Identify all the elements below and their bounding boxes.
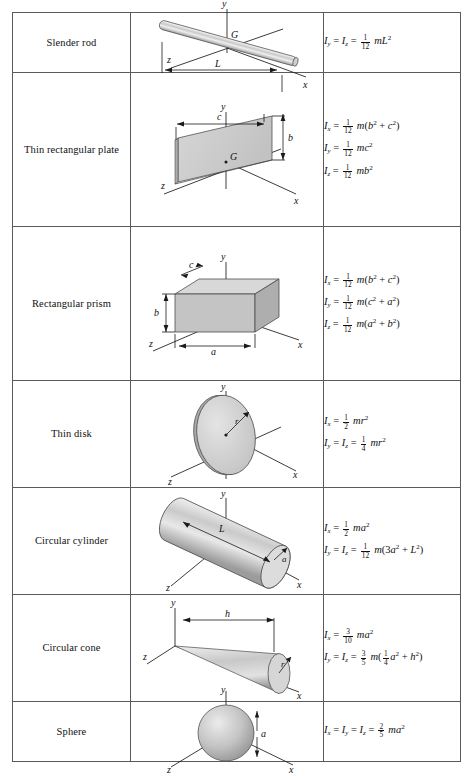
dimension-label-a: a <box>282 554 287 564</box>
dimension-label-b: b <box>154 307 159 318</box>
equations-cell: Ix = 112 m(b2 + c2) Iy = 112 m(c2 + a2) … <box>324 226 461 380</box>
axis-label-z: z <box>166 54 171 65</box>
point-label-G: G <box>231 29 238 40</box>
body-name-label: Rectangular prism <box>13 298 130 309</box>
inertia-table-page: Slender rod <box>0 0 472 776</box>
axis-label-y: y <box>220 251 226 262</box>
axis-label-z: z <box>166 764 171 775</box>
figure-thin-disk: y r z x <box>131 381 324 487</box>
body-name-cell: Slender rod <box>13 13 131 73</box>
figure-cell: y G z L x <box>131 13 324 73</box>
dimension-label-c: c <box>217 111 222 122</box>
axis-label-z: z <box>165 582 170 593</box>
equation-Ix-Iy-Iz: Ix = Iy = Iz = 25 ma2 <box>324 723 460 740</box>
body-name-label: Circular cylinder <box>13 535 130 546</box>
axis-label-x: x <box>293 195 299 206</box>
body-name-cell: Thin disk <box>13 380 131 487</box>
axis-label-y: y <box>220 687 226 695</box>
axis-label-z: z <box>142 651 147 662</box>
table-row: Rectangular prism <box>13 226 461 380</box>
body-name-label: Thin rectangular plate <box>13 144 130 155</box>
equation-Ix: Ix = 310 ma2 <box>324 628 460 645</box>
axis-label-z: z <box>148 338 153 349</box>
equation-Ix: Ix = 12 ma2 <box>324 521 460 538</box>
figure-circular-cone: y h r z x <box>131 595 324 701</box>
axis-label-y: y <box>170 597 176 608</box>
equation-Ix: Ix = 12 mr2 <box>324 414 460 431</box>
body-name-label: Thin disk <box>13 428 130 439</box>
axis-label-x: x <box>292 469 298 480</box>
body-name-label: Sphere <box>13 726 130 737</box>
dimension-label-r: r <box>281 659 285 669</box>
body-name-cell: Thin rectangular plate <box>13 73 131 227</box>
equation-Iz: Iz = 112 m(a2 + b2) <box>324 317 460 334</box>
figure-rectangular-prism: y c b z a x <box>131 227 324 380</box>
table-row: Thin rectangular plate <box>13 73 461 227</box>
figure-cell: y c b z a x <box>131 226 324 380</box>
table-row: Circular cylinder <box>13 487 461 594</box>
equations-cell: Ix = 112 m(b2 + c2) Iy = 112 mc2 Iz = 11… <box>324 73 461 227</box>
point-label-G: G <box>230 151 237 162</box>
dimension-label-h: h <box>225 608 230 619</box>
axis-label-y: y <box>220 488 226 499</box>
equation-Iz: Iz = 112 mb2 <box>324 164 460 181</box>
equation-Iy: Iy = 112 mc2 <box>324 141 460 158</box>
equation-Iy-Iz: Iy = Iz = 14 mr2 <box>324 436 460 453</box>
equations-cell: Ix = Iy = Iz = 25 ma2 <box>324 701 461 761</box>
equation-Iy: Iy = 112 m(c2 + a2) <box>324 295 460 312</box>
figure-cell: y c b G z x <box>131 73 324 227</box>
moments-of-inertia-table: Slender rod <box>12 12 461 762</box>
body-name-cell: Circular cylinder <box>13 487 131 594</box>
dimension-label-a: a <box>261 728 266 739</box>
axis-label-z: z <box>160 180 165 191</box>
equations-cell: Ix = 12 mr2 Iy = Iz = 14 mr2 <box>324 380 461 487</box>
dimension-label-a: a <box>211 346 216 357</box>
figure-thin-rectangular-plate: y c b G z x <box>131 73 324 226</box>
body-name-label: Circular cone <box>13 642 130 653</box>
table-row: Slender rod <box>13 13 461 73</box>
axis-label-x: x <box>297 339 303 350</box>
equations-cell: Ix = 310 ma2 Iy = Iz = 35 m(14a2 + h2) <box>324 594 461 701</box>
dimension-label-L: L <box>214 58 221 69</box>
figure-cell: y h r z x <box>131 594 324 701</box>
equation-Iy-Iz: Iy = Iz = 112 mL2 <box>324 34 460 51</box>
body-name-label: Slender rod <box>13 37 130 48</box>
body-name-cell: Circular cone <box>13 594 131 701</box>
table-row: Sphere y a z x Ix <box>13 701 461 761</box>
table-row: Circular cone y h <box>13 594 461 701</box>
equation-Iy-Iz: Iy = Iz = 35 m(14a2 + h2) <box>324 650 460 667</box>
figure-sphere: y a z x <box>131 702 324 761</box>
axis-label-y: y <box>220 381 226 392</box>
equation-Ix: Ix = 112 m(b2 + c2) <box>324 119 460 136</box>
equation-Ix: Ix = 112 m(b2 + c2) <box>324 273 460 290</box>
axis-label-x: x <box>296 579 302 590</box>
table-row: Thin disk y r z x Ix = <box>13 380 461 487</box>
dimension-label-L: L <box>218 523 225 534</box>
figure-circular-cylinder: y L a z x <box>131 488 324 594</box>
axis-label-x: x <box>288 764 294 775</box>
dimension-label-b: b <box>288 132 293 143</box>
body-name-cell: Sphere <box>13 701 131 761</box>
figure-slender-rod: y G z L x <box>131 13 324 72</box>
axis-label-z: z <box>167 476 172 487</box>
dimension-label-c: c <box>189 259 194 270</box>
figure-cell: y r z x <box>131 380 324 487</box>
equations-cell: Ix = 12 ma2 Iy = Iz = 112 m(3a2 + L2) <box>324 487 461 594</box>
dimension-label-r: r <box>235 416 239 426</box>
figure-cell: y L a z x <box>131 487 324 594</box>
body-name-cell: Rectangular prism <box>13 226 131 380</box>
equations-cell: Iy = Iz = 112 mL2 <box>324 13 461 73</box>
figure-cell: y a z x <box>131 701 324 761</box>
axis-label-y: y <box>221 0 227 9</box>
equation-Iy-Iz: Iy = Iz = 112 m(3a2 + L2) <box>324 543 460 560</box>
